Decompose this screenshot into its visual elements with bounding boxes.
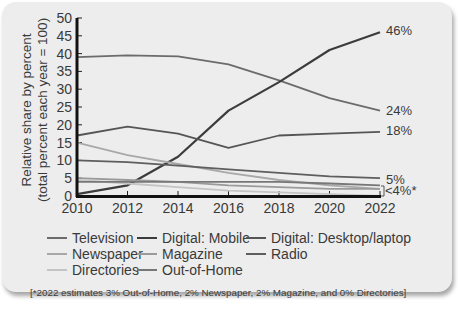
end-label-mobile: 46% bbox=[386, 23, 412, 38]
legend-item-television: Television bbox=[47, 230, 133, 246]
y-tick-label: 5 bbox=[64, 170, 72, 186]
line-swatch-icon bbox=[137, 253, 157, 255]
series-line-television bbox=[77, 55, 380, 110]
line-swatch-icon bbox=[246, 253, 266, 255]
y-tick-label: 25 bbox=[56, 99, 72, 115]
legend-item-radio: Radio bbox=[246, 246, 308, 262]
y-tick-label: 10 bbox=[56, 152, 72, 168]
x-tick-label: 2022 bbox=[364, 200, 395, 216]
y-tick-label: 45 bbox=[56, 28, 72, 44]
y-tick-label: 50 bbox=[56, 10, 72, 26]
end-label-others: <4%* bbox=[385, 183, 416, 198]
bracket-icon bbox=[381, 186, 384, 196]
series-line-radio bbox=[77, 160, 380, 178]
end-label-desktop: 18% bbox=[386, 123, 412, 138]
series-line-digital-desktop-laptop bbox=[77, 127, 380, 148]
x-tick-label: 2018 bbox=[263, 200, 294, 216]
x-tick-label: 2014 bbox=[162, 200, 193, 216]
y-tick-label: 15 bbox=[56, 135, 72, 151]
y-tick-label: 40 bbox=[56, 46, 72, 62]
y-tick-label: 35 bbox=[56, 63, 72, 79]
line-swatch-icon bbox=[246, 237, 266, 239]
x-tick-label: 2010 bbox=[61, 200, 92, 216]
x-tick-label: 2020 bbox=[314, 200, 345, 216]
x-tick-label: 2012 bbox=[112, 200, 143, 216]
x-tick-label: 2016 bbox=[213, 200, 244, 216]
line-swatch-icon bbox=[47, 253, 67, 255]
line-swatch-icon bbox=[47, 237, 67, 239]
legend-item-ooh: Out-of-Home bbox=[137, 262, 243, 278]
legend-item-magazine: Magazine bbox=[137, 246, 223, 262]
legend-item-directories: Directories bbox=[47, 262, 139, 278]
legend-item-newspaper: Newspaper bbox=[47, 246, 143, 262]
y-axis-label-line2: (total percent each year = 100) bbox=[35, 18, 50, 202]
end-label-tv: 24% bbox=[386, 103, 412, 118]
line-swatch-icon bbox=[137, 269, 157, 271]
line-swatch-icon bbox=[137, 237, 157, 240]
legend-item-mobile: Digital: Mobile bbox=[137, 230, 250, 246]
y-tick-label: 30 bbox=[56, 81, 72, 97]
legend-item-desktop: Digital: Desktop/laptop bbox=[246, 230, 411, 246]
y-tick-label: 20 bbox=[56, 117, 72, 133]
line-swatch-icon bbox=[47, 269, 67, 271]
footnote: [*2022 estimates 3% Out-of-Home, 2% News… bbox=[30, 287, 406, 298]
y-axis-label-line1: Relative share by percent bbox=[19, 33, 34, 186]
